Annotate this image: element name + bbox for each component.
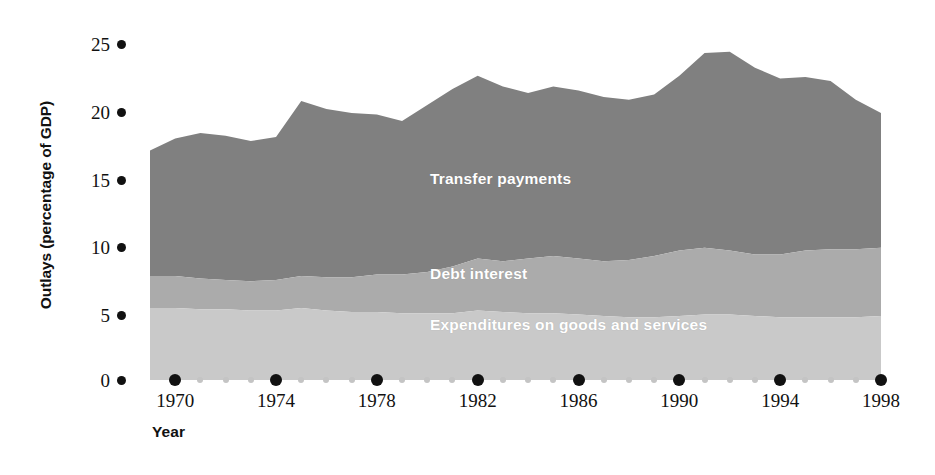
area-transfer-payments [150, 52, 881, 282]
y-tick-label: 0 [101, 371, 111, 390]
x-tick-label: 1974 [257, 390, 295, 412]
y-axis-title: Outlays (percentage of GDP) [37, 55, 55, 355]
y-tick-dot-icon [117, 243, 126, 252]
y-tick-label: 25 [91, 35, 110, 54]
y-tick-5: 5 [70, 304, 126, 326]
series-label-debt-interest: Debt interest [430, 265, 527, 283]
x-tick-label: 1994 [761, 390, 799, 412]
x-tick-label: 1978 [358, 390, 396, 412]
y-tick-label: 10 [91, 238, 110, 257]
y-tick-dot-icon [117, 40, 126, 49]
x-tick-label: 1970 [156, 390, 194, 412]
x-tick-label: 1982 [459, 390, 497, 412]
y-tick-25: 25 [70, 33, 126, 55]
y-tick-label: 15 [91, 171, 110, 190]
series-label-transfer-payments: Transfer payments [430, 170, 571, 188]
y-tick-dot-icon [117, 311, 126, 320]
chart-figure: Outlays (percentage of GDP) 25 20 15 10 … [0, 0, 935, 475]
y-tick-dot-icon [117, 376, 126, 385]
y-tick-label: 20 [91, 103, 110, 122]
y-tick-15: 15 [70, 169, 126, 191]
y-tick-dot-icon [117, 176, 126, 185]
y-tick-20: 20 [70, 101, 126, 123]
x-tick-label: 1986 [560, 390, 598, 412]
y-tick-dot-icon [117, 108, 126, 117]
x-axis-title: Year [152, 423, 185, 441]
x-tick-label: 1998 [862, 390, 900, 412]
y-tick-10: 10 [70, 236, 126, 258]
series-label-expenditures: Expenditures on goods and services [430, 316, 707, 334]
y-tick-label: 5 [101, 306, 111, 325]
y-tick-0: 0 [70, 369, 126, 391]
x-tick-label: 1990 [660, 390, 698, 412]
